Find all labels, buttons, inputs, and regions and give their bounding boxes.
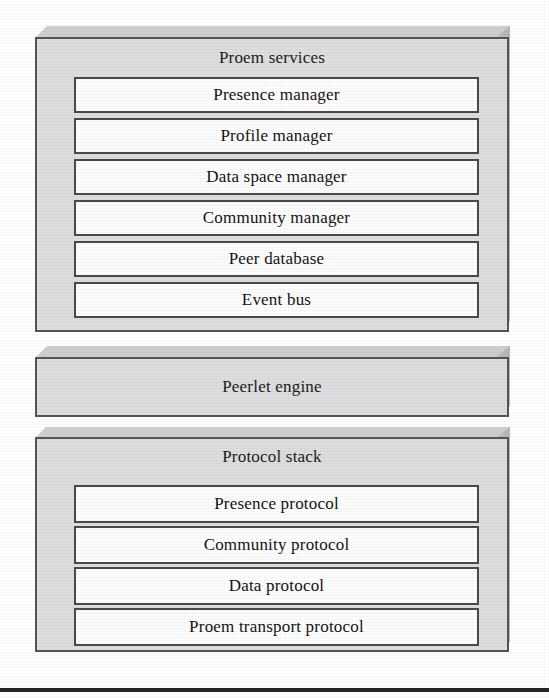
- layer-proem-services: Proem services Presence manager Profile …: [35, 37, 509, 332]
- row-data-protocol[interactable]: Data protocol: [74, 567, 479, 605]
- layer-protocol-stack: Protocol stack Presence protocol Communi…: [35, 437, 509, 652]
- row-presence-protocol[interactable]: Presence protocol: [74, 485, 479, 523]
- row-label: Presence protocol: [214, 494, 339, 514]
- proem-services-title: Proem services: [35, 48, 509, 68]
- row-community-protocol[interactable]: Community protocol: [74, 526, 479, 564]
- row-label: Event bus: [242, 290, 311, 310]
- row-label: Peer database: [229, 249, 325, 269]
- row-data-space-manager[interactable]: Data space manager: [74, 159, 479, 195]
- row-label: Presence manager: [213, 85, 339, 105]
- row-proem-transport-protocol[interactable]: Proem transport protocol: [74, 608, 479, 646]
- architecture-diagram: Proem services Presence manager Profile …: [0, 0, 549, 698]
- row-community-manager[interactable]: Community manager: [74, 200, 479, 236]
- row-presence-manager[interactable]: Presence manager: [74, 77, 479, 113]
- row-label: Community manager: [203, 208, 350, 228]
- row-label: Data protocol: [229, 576, 325, 596]
- row-profile-manager[interactable]: Profile manager: [74, 118, 479, 154]
- protocol-stack-title: Protocol stack: [35, 447, 509, 467]
- peerlet-engine-title: Peerlet engine: [35, 377, 509, 397]
- row-label: Proem transport protocol: [189, 617, 364, 637]
- row-label: Data space manager: [206, 167, 346, 187]
- row-peer-database[interactable]: Peer database: [74, 241, 479, 277]
- row-event-bus[interactable]: Event bus: [74, 282, 479, 318]
- layer-peerlet-engine: Peerlet engine: [35, 357, 509, 417]
- row-label: Profile manager: [220, 126, 332, 146]
- bottom-rule: [0, 688, 549, 692]
- row-label: Community protocol: [204, 535, 350, 555]
